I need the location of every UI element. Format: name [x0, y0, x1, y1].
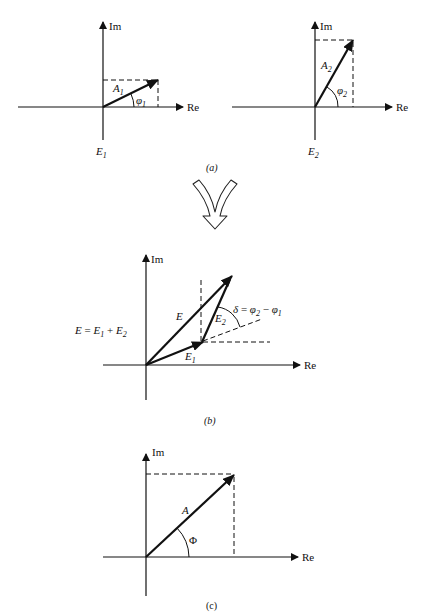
im-label: Im — [320, 20, 333, 32]
im-label: Im — [152, 446, 165, 458]
angle-label-phi: Φ — [189, 534, 197, 546]
re-label: Re — [302, 551, 314, 563]
vector-label-a2: A2 — [320, 59, 332, 74]
caption-c: (c) — [206, 600, 217, 612]
vector-a1 — [103, 80, 158, 107]
caption-a: (a) — [206, 162, 218, 174]
vector-label-e2: E2 — [214, 312, 226, 327]
angle-label-phi2: φ2 — [337, 84, 347, 99]
vector-label-e1: E1 — [184, 350, 196, 365]
angle-arc-phi — [177, 528, 189, 557]
re-label: Re — [304, 359, 316, 371]
vector-label-a: A — [181, 504, 189, 516]
im-label: Im — [109, 20, 122, 32]
field-label-e2: E2 — [307, 145, 319, 160]
caption-b: (b) — [204, 415, 216, 427]
phasor-addition-diagram: Im Re A1 φ1 E1 Im Re A2 φ2 E2 (a) Im Re — [0, 0, 425, 613]
panel-b: Im Re E E1 E2 E = E1 + E2 δ = φ2 − φ1 — [74, 253, 316, 400]
im-label: Im — [151, 253, 164, 265]
merge-arrow-icon — [193, 180, 237, 229]
delta-equation: δ = φ2 − φ1 — [233, 303, 282, 318]
panel-a-left: Im Re A1 φ1 E1 — [18, 20, 199, 160]
re-label: Re — [187, 101, 199, 113]
panel-c: Im Re A Φ — [103, 446, 314, 596]
vector-label-e: E — [175, 310, 183, 322]
angle-arc-phi1 — [131, 94, 134, 107]
re-label: Re — [396, 101, 408, 113]
field-label-e1: E1 — [95, 145, 107, 160]
sum-equation: E = E1 + E2 — [74, 324, 127, 339]
vector-a2 — [315, 40, 353, 107]
panel-a-right: Im Re A2 φ2 E2 — [232, 20, 408, 160]
vector-label-a1: A1 — [112, 82, 124, 97]
